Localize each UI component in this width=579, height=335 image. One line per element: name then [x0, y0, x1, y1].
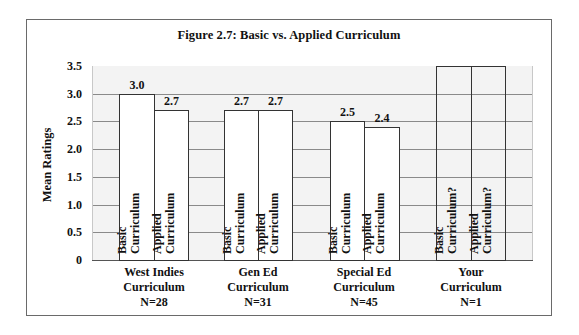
bar-value-label: 3.0 — [119, 78, 155, 93]
y-tick-label: 1.0 — [42, 197, 82, 212]
bar-inner-label: BasicCurriculum? — [433, 187, 459, 254]
bar-inner-label: BasicCurriculum — [221, 193, 247, 254]
y-tick-label: 3.5 — [42, 59, 82, 74]
bar-inner-label: BasicCurriculum — [327, 193, 353, 254]
bar-inner-label: AppliedCurriculum? — [468, 187, 494, 254]
y-tick-label: 2.5 — [42, 114, 82, 129]
bar-value-label: 2.7 — [258, 94, 294, 109]
x-category-label: West IndiesCurriculumN=28 — [99, 265, 209, 310]
bar: AppliedCurriculum? — [471, 66, 506, 261]
bar: AppliedCurriculum — [258, 110, 293, 261]
y-axis-label: Mean Ratings — [40, 128, 55, 203]
bar-value-label: 2.7 — [224, 94, 260, 109]
y-tick-label: 0.5 — [42, 225, 82, 240]
y-tick-label: 1.5 — [42, 169, 82, 184]
x-category-label: Gen EdCurriculumN=31 — [203, 265, 313, 310]
chart-title: Figure 2.7: Basic vs. Applied Curriculum — [27, 28, 551, 43]
bar-value-label: 2.7 — [154, 94, 190, 109]
bar-inner-label: AppliedCurriculum — [151, 193, 177, 254]
bar-inner-label: AppliedCurriculum — [255, 193, 281, 254]
y-tick-label: 0 — [42, 253, 82, 268]
bar: AppliedCurriculum — [364, 127, 400, 261]
x-category-label: YourCurriculumN=1 — [416, 265, 526, 310]
y-axis-line — [92, 66, 93, 261]
y-tick-label: 3.0 — [42, 86, 82, 101]
bar-inner-label: AppliedCurriculum — [361, 193, 387, 254]
y-tick-label: 2.0 — [42, 142, 82, 157]
bar-value-label: 2.4 — [364, 111, 400, 126]
bar-inner-label: BasicCurriculum — [116, 193, 142, 254]
x-category-label: Special EdCurriculumN=45 — [309, 265, 419, 310]
bar: AppliedCurriculum — [154, 110, 189, 261]
bar-value-label: 2.5 — [330, 105, 366, 120]
